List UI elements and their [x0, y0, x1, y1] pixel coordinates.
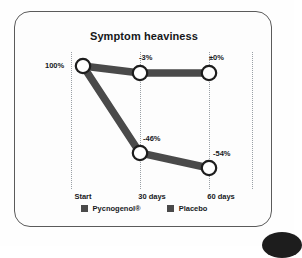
x-tick-label-30-days: 30 days	[138, 192, 166, 201]
x-tick-label-60-days: 60 days	[207, 192, 235, 201]
data-label-pycnogenol-30days: -46%	[143, 134, 161, 143]
marker-pycnogenol-60days	[202, 161, 216, 175]
data-label-pycnogenol-60days: -54%	[213, 149, 231, 158]
marker-placebo-60days	[202, 66, 216, 80]
legend-swatch-icon-pycnogenol	[81, 205, 88, 212]
chart-legend: Pycnogenol® Placebo	[15, 204, 273, 213]
data-label-placebo-60days: ±0%	[209, 53, 224, 62]
x-tick-label-start: Start	[74, 192, 91, 201]
marker-start-shared	[76, 59, 90, 73]
legend-item-pycnogenol: Pycnogenol®	[81, 204, 141, 213]
data-label-placebo-30days: -3%	[139, 53, 152, 62]
plot-area: 100% -3% ±0% -46% -54% Start 30 days 60 …	[15, 12, 273, 228]
data-label-start: 100%	[45, 61, 64, 70]
legend-item-placebo: Placebo	[167, 204, 208, 213]
marker-placebo-30days	[133, 66, 147, 80]
legend-swatch-icon-placebo	[167, 205, 174, 212]
chart-card: Symptom heaviness	[14, 11, 272, 227]
corner-disc-decoration	[262, 232, 302, 258]
marker-pycnogenol-30days	[133, 146, 147, 160]
legend-label-placebo: Placebo	[179, 204, 208, 213]
legend-label-pycnogenol: Pycnogenol®	[93, 204, 141, 213]
